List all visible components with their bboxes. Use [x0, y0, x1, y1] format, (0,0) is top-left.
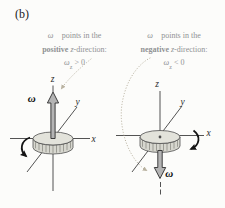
y-axis-label: y — [180, 97, 186, 107]
left-diagram: x y z ω⃗ — [10, 59, 97, 191]
rotation-direction-arrow — [191, 131, 199, 150]
z-axis-label: z — [154, 79, 159, 89]
diagram-canvas: x y z ω⃗ — [0, 0, 225, 208]
caption-leader-line — [62, 59, 92, 89]
omega-vector-arrow-down — [154, 151, 165, 179]
y-axis-label: y — [75, 97, 81, 107]
x-axis-label: x — [91, 134, 97, 144]
figure-panel: (b) ω⃗ points in the positive z-directio… — [0, 0, 225, 208]
disk-hub — [159, 136, 162, 139]
z-axis-label: z — [50, 74, 55, 84]
right-diagram: x y z ω⃗ — [116, 58, 212, 195]
omega-vector-arrow-up — [47, 92, 58, 139]
rotation-direction-arrow — [22, 138, 30, 157]
omega-vector-label: ω⃗ — [28, 92, 45, 104]
x-axis-label: x — [206, 128, 212, 138]
omega-vector-label: ω⃗ — [165, 167, 182, 179]
